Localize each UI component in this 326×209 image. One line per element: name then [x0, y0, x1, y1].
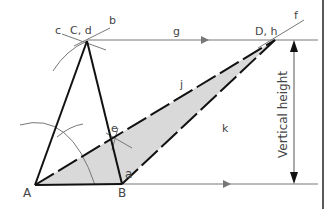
arrow-baseline-icon	[223, 180, 231, 188]
label-e: e	[111, 122, 118, 135]
label-vertical-height: Vertical height	[276, 71, 290, 158]
label-g: g	[173, 25, 180, 38]
label-k: k	[222, 122, 229, 135]
label-c: c	[55, 24, 61, 37]
arrow-up-icon	[290, 40, 298, 52]
label-a: a	[125, 167, 132, 181]
arrow-g-icon	[201, 36, 209, 44]
side-a	[35, 184, 122, 185]
label-point-b: B	[118, 186, 126, 200]
label-point-a: A	[23, 186, 32, 200]
geometry-diagram: c C, d b g D, h f j k e a A B Vertical h…	[0, 0, 326, 209]
label-dh: D, h	[255, 25, 277, 38]
label-cd: C, d	[70, 24, 92, 37]
label-b: b	[109, 14, 116, 27]
label-f: f	[294, 9, 299, 22]
label-j: j	[179, 78, 183, 91]
arrow-down-icon	[290, 172, 298, 184]
